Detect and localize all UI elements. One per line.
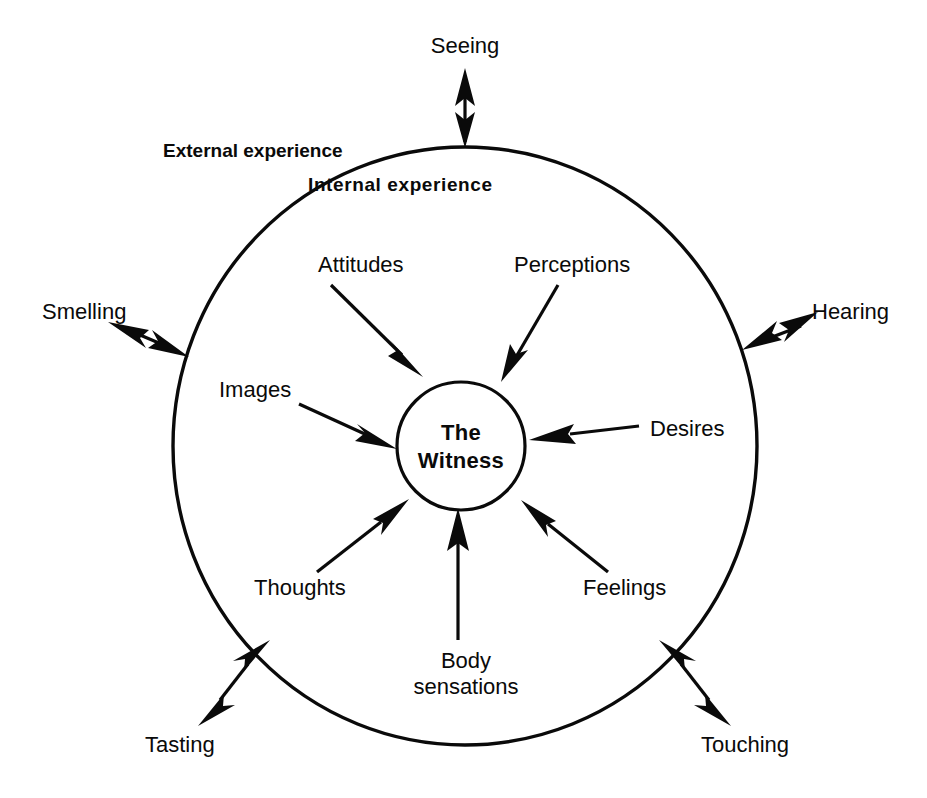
witness-label-line1: The bbox=[441, 420, 481, 445]
desires-arrow-shaft bbox=[570, 426, 639, 434]
perceptions-arrow-head bbox=[501, 344, 528, 382]
zone-label-internal-experience: Internal experience bbox=[308, 174, 493, 195]
witness-label-line2: Witness bbox=[418, 448, 504, 473]
thoughts-arrow-head bbox=[373, 499, 409, 535]
zone-label-external-experience: External experience bbox=[163, 140, 343, 161]
feelings-arrow-shaft bbox=[548, 524, 608, 572]
content-group-thoughts: Thoughts bbox=[254, 499, 409, 600]
content-label-images: Images bbox=[219, 377, 291, 402]
content-label-perceptions: Perceptions bbox=[514, 252, 630, 277]
content-label-thoughts: Thoughts bbox=[254, 575, 346, 600]
content-label-desires: Desires bbox=[650, 416, 725, 441]
smelling-arrow-head-outward bbox=[108, 322, 149, 348]
tasting-arrow-shaft bbox=[220, 664, 248, 700]
content-label-body-sensations-line2: sensations bbox=[413, 674, 518, 699]
content-label-feelings: Feelings bbox=[583, 575, 666, 600]
thoughts-arrow-shaft bbox=[317, 522, 381, 572]
smelling-arrow-head-inward bbox=[148, 330, 189, 357]
tasting-arrow-head-outward bbox=[198, 694, 235, 726]
sense-label-smelling: Smelling bbox=[42, 299, 126, 324]
witness-circle bbox=[397, 382, 525, 510]
content-group-attitudes: Attitudes bbox=[318, 252, 423, 377]
content-group-perceptions: Perceptions bbox=[501, 252, 630, 382]
diagram-canvas: External experience Internal experience … bbox=[0, 0, 927, 798]
sense-group-seeing: Seeing bbox=[431, 33, 500, 148]
hearing-arrow-head-outward bbox=[779, 312, 818, 342]
content-label-attitudes: Attitudes bbox=[318, 252, 404, 277]
sense-group-tasting: Tasting bbox=[145, 640, 270, 757]
perceptions-arrow-shaft bbox=[516, 285, 558, 357]
sense-group-touching: Touching bbox=[659, 640, 789, 757]
content-label-body-sensations-line1: Body bbox=[441, 648, 491, 673]
content-group-images: Images bbox=[219, 377, 397, 449]
sense-label-tasting: Tasting bbox=[145, 732, 215, 757]
content-group-feelings: Feelings bbox=[521, 500, 666, 600]
content-group-body-sensations: Body sensations bbox=[413, 508, 518, 699]
tasting-arrow-head-inward bbox=[233, 640, 270, 671]
sense-group-hearing: Hearing bbox=[742, 299, 889, 350]
desires-arrow-head bbox=[529, 424, 576, 444]
touching-arrow-shaft bbox=[681, 664, 709, 700]
images-arrow-shaft bbox=[299, 404, 367, 435]
witness-diagram: External experience Internal experience … bbox=[0, 0, 927, 798]
attitudes-arrow-shaft bbox=[331, 285, 402, 355]
sense-group-smelling: Smelling bbox=[42, 299, 189, 357]
images-arrow-head bbox=[355, 424, 397, 449]
sense-label-touching: Touching bbox=[701, 732, 789, 757]
sense-label-seeing: Seeing bbox=[431, 33, 500, 58]
content-group-desires: Desires bbox=[529, 416, 725, 444]
touching-arrow-head-outward bbox=[694, 694, 731, 726]
sense-label-hearing: Hearing bbox=[812, 299, 889, 324]
feelings-arrow-head bbox=[521, 500, 556, 537]
